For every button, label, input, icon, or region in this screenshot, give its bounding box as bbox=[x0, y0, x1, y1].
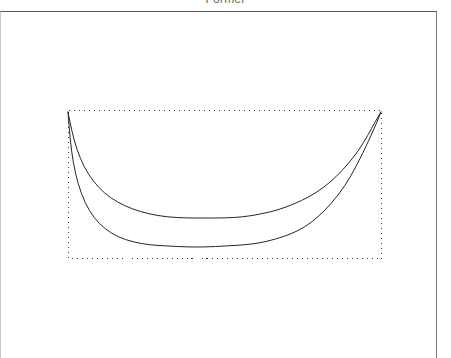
screenshot-root: Former bbox=[0, 0, 451, 358]
window-title-bar: Former bbox=[0, 0, 451, 5]
curve-upper bbox=[68, 112, 381, 218]
plot-canvas bbox=[0, 11, 438, 358]
curve-lower bbox=[68, 112, 381, 247]
dotted-bounding-box bbox=[69, 111, 382, 259]
page-title: Former bbox=[206, 0, 246, 5]
plot-svg bbox=[0, 11, 438, 358]
